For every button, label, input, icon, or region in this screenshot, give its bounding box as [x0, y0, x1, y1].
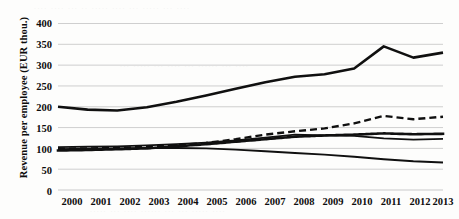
gridlines: [58, 24, 443, 191]
plot-area: [0, 0, 459, 219]
series-lines: [58, 46, 443, 162]
chart-figure: .... .... ... .. ..... .... ... ..... ..…: [0, 0, 459, 219]
series-1-solid-thick: [58, 46, 443, 110]
